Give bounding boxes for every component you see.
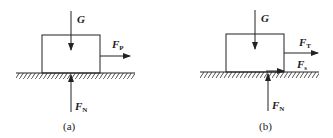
pull-label: FP <box>111 38 124 52</box>
ground-hatch <box>200 72 319 78</box>
pull-label: FT <box>298 36 311 50</box>
normal-label: FN <box>74 100 87 114</box>
diagram-b: G FT Fs FN (b) <box>200 10 319 133</box>
ground-hatch <box>16 73 135 79</box>
normal-label: FN <box>271 99 284 113</box>
gravity-label: G <box>77 13 85 25</box>
friction-label: Fs <box>296 58 307 72</box>
caption-b: (b) <box>259 120 272 133</box>
diagram-a: G FP FN (a) <box>16 11 135 133</box>
force-diagrams: G FP FN (a) G FT Fs FN (b) <box>0 0 333 138</box>
gravity-label: G <box>261 12 269 24</box>
caption-a: (a) <box>63 120 76 133</box>
